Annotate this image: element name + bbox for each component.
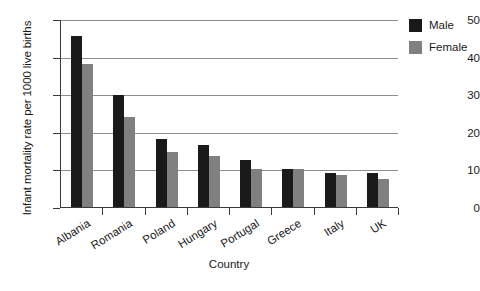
x-tick-mark [398,208,399,215]
bar-male [325,173,336,207]
x-tick-mark [187,208,188,215]
bar-female [336,175,347,207]
y-tick-label: 20 [442,127,480,139]
y-tick-mark [53,208,60,209]
bar-group [71,20,93,207]
x-axis-title: Country [60,258,398,270]
gridline [61,58,398,59]
x-tick-mark [356,208,357,215]
y-tick-label: 10 [442,164,480,176]
legend-swatch-icon [409,41,422,54]
bar-female [378,179,389,207]
legend-swatch-icon [409,19,422,32]
legend-label: Male [429,19,454,31]
bar-female [251,169,262,207]
gridline [61,20,398,21]
bar-female [124,117,135,207]
bar-male [113,95,124,207]
bar-male [198,145,209,207]
gridline [61,133,398,134]
bar-group [198,20,220,207]
y-tick-label: 30 [442,89,480,101]
legend-item-male: Male [409,14,479,36]
legend-label: Female [429,41,467,53]
y-tick-mark [53,58,60,59]
bar-group [240,20,262,207]
x-tick-mark [314,208,315,215]
bar-group [113,20,135,207]
x-tick-mark [271,208,272,215]
y-axis-title: Infant mortality rate per 1000 live birt… [14,12,40,224]
x-tick-mark [145,208,146,215]
bar-group [367,20,389,207]
bar-group [156,20,178,207]
bar-female [82,64,93,207]
bar-female [293,169,304,207]
bar-male [367,173,378,207]
chart-legend: MaleFemale [409,14,479,58]
x-tick-mark [229,208,230,215]
bar-female [167,152,178,207]
y-tick-mark [53,95,60,96]
legend-item-female: Female [409,36,479,58]
gridline [61,170,398,171]
bar-female [209,156,220,207]
bar-male [71,36,82,207]
y-tick-mark [53,20,60,21]
bar-group [325,20,347,207]
y-tick-mark [53,133,60,134]
bar-group [282,20,304,207]
bar-chart: Infant mortality rate per 1000 live birt… [0,0,480,291]
plot-area [60,20,398,208]
bar-male [156,139,167,207]
x-tick-mark [102,208,103,215]
bar-male [282,169,293,207]
y-tick-mark [53,170,60,171]
gridline [61,95,398,96]
y-tick-label: 0 [442,202,480,214]
bar-male [240,160,251,207]
